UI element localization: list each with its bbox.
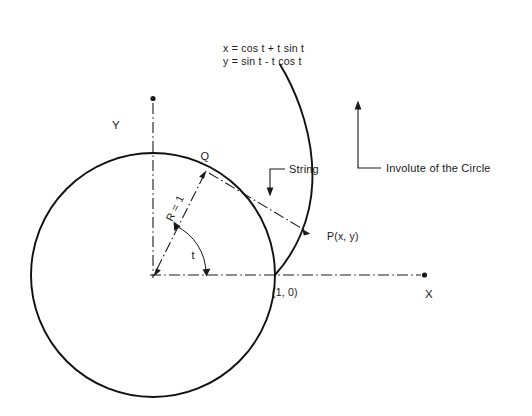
involute-leader-arrowhead <box>355 101 362 110</box>
diagram-canvas: Y X R = 1 t <box>0 0 532 416</box>
string-label: String <box>289 163 319 175</box>
involute-leader-line <box>358 107 381 168</box>
point-p-label: P(x, y) <box>327 230 359 242</box>
radius-arrowhead-outer <box>199 170 206 179</box>
string-leader-arrowhead <box>267 188 274 197</box>
x-axis-terminator-dot <box>422 272 427 277</box>
point-1-0-label: (1, 0) <box>272 286 298 298</box>
y-axis-terminator-dot <box>150 96 155 101</box>
string-arrowhead-at-p <box>302 229 310 235</box>
involute-label: Involute of the Circle <box>386 162 491 174</box>
angle-t-group: t <box>174 222 211 277</box>
involute-leader-group: Involute of the Circle <box>355 101 491 175</box>
radius-label: R = 1 <box>163 193 186 223</box>
radius-line <box>157 177 203 269</box>
string-group <box>209 173 310 236</box>
involute-diagram: Y X R = 1 t <box>0 0 532 416</box>
point-q-group: Q <box>201 150 210 162</box>
parametric-equations: x = cos t + t sin t y = sin t - t cos t <box>223 42 304 67</box>
y-axis-group: Y <box>112 96 156 278</box>
equation-y: y = sin t - t cos t <box>223 55 302 67</box>
radius-group: R = 1 <box>153 170 206 277</box>
string-line <box>209 173 306 231</box>
equation-x: x = cos t + t sin t <box>223 42 304 54</box>
angle-label: t <box>191 249 194 261</box>
x-axis-label: X <box>425 288 433 300</box>
point-q-label: Q <box>201 150 210 162</box>
y-axis-label: Y <box>112 119 120 131</box>
string-leader-line <box>270 169 285 190</box>
